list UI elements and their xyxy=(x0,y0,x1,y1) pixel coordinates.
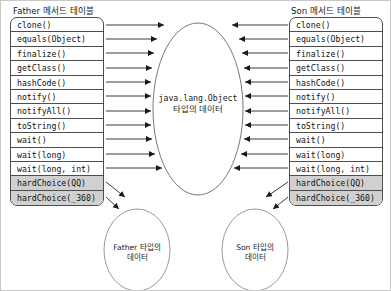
father-node-label-line2: 데이터 xyxy=(101,253,173,263)
father_methods-row[interactable]: toString() xyxy=(11,119,103,133)
father_methods-row[interactable]: clone() xyxy=(11,18,103,32)
father_methods-row[interactable]: equals(Object) xyxy=(11,32,103,46)
son_methods-row[interactable]: notify() xyxy=(290,90,382,104)
object-node-label: java.lang.Object 타입의 데이터 xyxy=(153,93,243,115)
object-node-label-line2: 타입의 데이터 xyxy=(153,104,243,115)
father_methods-row[interactable]: getClass() xyxy=(11,61,103,75)
son-table-caption: Son 메서드 테이블 xyxy=(291,4,361,16)
son-hardchoice-arrows xyxy=(266,182,288,209)
father-method-table: clone()equals(Object)finalize()getClass(… xyxy=(10,17,104,206)
son_methods-row[interactable]: hashCode() xyxy=(290,76,382,90)
son-method-table: clone()equals(Object)finalize()getClass(… xyxy=(289,17,383,206)
son_methods-row[interactable]: wait(long) xyxy=(290,148,382,162)
son-node-label: Son 타입의 데이터 xyxy=(219,243,291,263)
father_methods-row[interactable]: hardChoice(_360) xyxy=(11,191,103,205)
son_methods-row[interactable]: finalize() xyxy=(290,47,382,61)
father_methods-row[interactable]: finalize() xyxy=(11,47,103,61)
father-hardchoice-arrows xyxy=(106,182,125,209)
son_methods-row[interactable]: wait() xyxy=(290,133,382,147)
father-table-caption: Father 메서드 테이블 xyxy=(13,4,94,16)
son_methods-row[interactable]: hardChoice(_360) xyxy=(290,191,382,205)
father_methods-row[interactable]: notifyAll() xyxy=(11,104,103,118)
son_methods-row[interactable]: notifyAll() xyxy=(290,104,382,118)
son_methods-row[interactable]: equals(Object) xyxy=(290,32,382,46)
son_methods-row[interactable]: getClass() xyxy=(290,61,382,75)
father_methods-row[interactable]: hashCode() xyxy=(11,76,103,90)
father_methods-row[interactable]: hardChoice(QQ) xyxy=(11,176,103,190)
son_methods-row[interactable]: wait(long, int) xyxy=(290,162,382,176)
son-node-label-line1: Son 타입의 xyxy=(219,243,291,253)
son_methods-row[interactable]: clone() xyxy=(290,18,382,32)
son-node-label-line2: 데이터 xyxy=(219,253,291,263)
father_methods-row[interactable]: notify() xyxy=(11,90,103,104)
father-node-label: Father 타입의 데이터 xyxy=(101,243,173,263)
object-node-label-line1: java.lang.Object xyxy=(153,93,243,104)
father_methods-row[interactable]: wait(long) xyxy=(11,148,103,162)
father_methods-row[interactable]: wait(long, int) xyxy=(11,162,103,176)
son_methods-row[interactable]: hardChoice(QQ) xyxy=(290,176,382,190)
diagram-canvas: Father 메서드 테이블 Son 메서드 테이블 clone()equals… xyxy=(0,0,391,291)
father-node-label-line1: Father 타입의 xyxy=(101,243,173,253)
son_methods-row[interactable]: toString() xyxy=(290,119,382,133)
father_methods-row[interactable]: wait() xyxy=(11,133,103,147)
